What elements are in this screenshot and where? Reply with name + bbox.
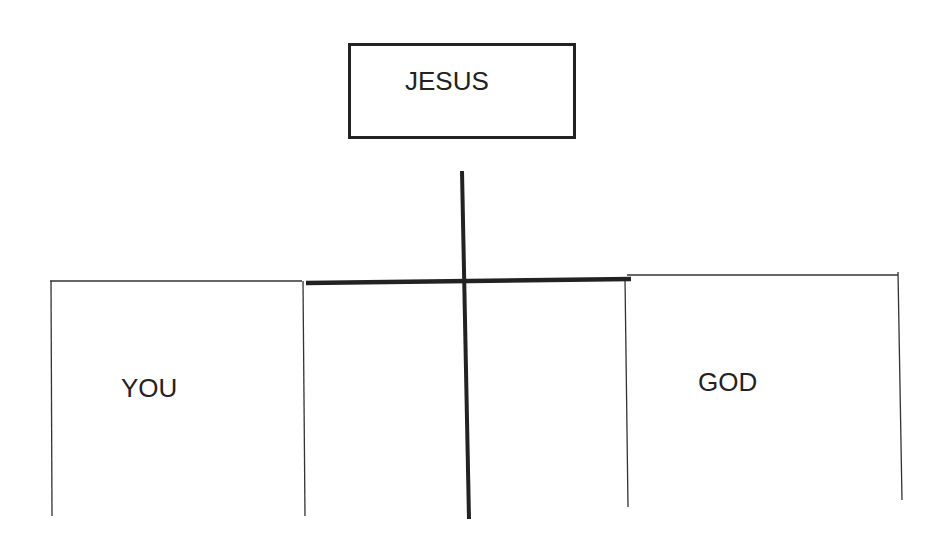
cross-icon	[306, 171, 631, 519]
right-panel-outline	[625, 272, 902, 507]
left-panel-outline	[50, 281, 305, 516]
jesus-label: JESUS	[405, 66, 489, 97]
bridge-diagram: JESUS YOU GOD	[0, 0, 945, 540]
god-label: GOD	[698, 367, 757, 398]
you-label: YOU	[121, 373, 177, 404]
